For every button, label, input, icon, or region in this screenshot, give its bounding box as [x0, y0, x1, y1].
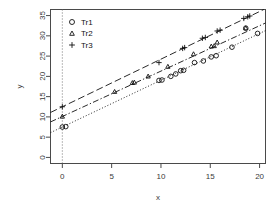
x-tick-label: 5	[109, 172, 114, 181]
x-tick-label: 10	[157, 172, 166, 181]
data-point-tr1	[209, 55, 214, 60]
data-point-tr1	[201, 59, 206, 64]
x-tick-label: 15	[206, 172, 215, 181]
data-point-tr1	[181, 68, 186, 73]
y-tick-label: 35	[38, 11, 47, 20]
data-point-tr2	[215, 40, 219, 44]
scatter-plot-figure: 05101520x05101520253035yTr1Tr2Tr3	[0, 0, 278, 213]
data-point-tr1	[169, 74, 174, 79]
data-point-tr2	[191, 52, 195, 56]
y-tick-label: 25	[38, 51, 47, 60]
x-tick-label: 0	[60, 172, 65, 181]
y-tick-label: 15	[38, 92, 47, 101]
legend-label-tr2: Tr2	[81, 29, 93, 38]
legend-marker-tr3	[69, 42, 75, 48]
data-point-tr3	[217, 27, 222, 32]
data-point-tr1	[230, 45, 235, 50]
legend-label-tr3: Tr3	[81, 41, 93, 50]
data-point-tr3	[203, 35, 208, 40]
y-tick-label: 5	[38, 134, 47, 139]
data-point-tr3	[214, 28, 219, 33]
y-axis-title: y	[15, 85, 24, 89]
y-tick-label: 30	[38, 31, 47, 40]
legend-marker-tr1	[70, 20, 75, 25]
data-point-tr3	[60, 104, 65, 109]
y-tick-label: 0	[38, 155, 47, 160]
y-tick-label: 10	[38, 112, 47, 121]
y-tick-label: 20	[38, 71, 47, 80]
legend-label-tr1: Tr1	[81, 18, 93, 27]
legend-marker-tr2	[70, 31, 75, 35]
chart-canvas: 05101520x05101520253035yTr1Tr2Tr3	[0, 0, 278, 213]
x-tick-label: 20	[255, 172, 264, 181]
x-axis-title: x	[156, 193, 160, 202]
data-point-tr1	[173, 72, 178, 77]
